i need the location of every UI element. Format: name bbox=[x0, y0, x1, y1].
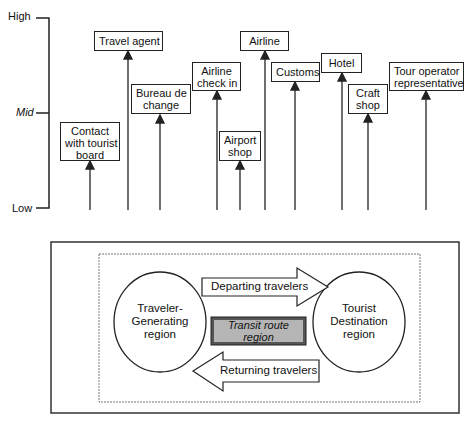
label-line: Bureau de bbox=[136, 87, 186, 99]
departing-travelers-label: Departing travelers bbox=[211, 280, 308, 292]
service-airline: Airline bbox=[240, 31, 289, 51]
label-line: shop bbox=[353, 99, 383, 111]
service-tour-operator-representative: Tour operator representative bbox=[389, 62, 464, 91]
label-line: Tourist bbox=[313, 302, 405, 315]
label-line: change bbox=[136, 99, 186, 111]
label-line: Hotel bbox=[326, 57, 357, 69]
service-airline-check-in: Airline check in bbox=[192, 62, 241, 91]
label-line: Travel agent bbox=[99, 35, 158, 47]
service-airport-shop: Airport shop bbox=[219, 131, 261, 161]
transit-route-region: Transit route region bbox=[211, 319, 306, 343]
label-line: with tourist bbox=[65, 137, 115, 149]
label-line: shop bbox=[224, 146, 256, 158]
axis-high-label: High bbox=[8, 10, 31, 22]
label-line: Airport bbox=[224, 134, 256, 146]
label-line: region bbox=[114, 328, 206, 341]
label-line: check in bbox=[197, 77, 236, 89]
label-line: Airline bbox=[197, 65, 236, 77]
label-line: Generating bbox=[114, 315, 206, 328]
label-line: Contact bbox=[65, 125, 115, 137]
label-line: Traveler- bbox=[114, 302, 206, 315]
label-line: Airline bbox=[245, 35, 284, 47]
traveler-generating-region: Traveler- Generating region bbox=[114, 302, 206, 341]
label-line: region bbox=[211, 331, 306, 343]
service-bureau-de-change: Bureau de change bbox=[131, 84, 191, 114]
service-travel-agent: Travel agent bbox=[94, 31, 163, 51]
label-line: Tour operator bbox=[394, 65, 459, 77]
label-line: region bbox=[313, 328, 405, 341]
label-line: Destination bbox=[313, 315, 405, 328]
service-craft-shop: Craft shop bbox=[348, 84, 388, 114]
returning-travelers-label: Returning travelers bbox=[220, 364, 317, 376]
label-line: representative bbox=[394, 77, 459, 89]
axis-mid-label: Mid bbox=[16, 106, 34, 118]
label-line: Customs bbox=[276, 66, 315, 78]
label-line: board bbox=[65, 149, 115, 161]
tourist-destination-region: Tourist Destination region bbox=[313, 302, 405, 341]
label-line: Transit route bbox=[211, 319, 306, 331]
service-contact-tourist-board: Contact with tourist board bbox=[60, 122, 120, 161]
label-line: Craft bbox=[353, 87, 383, 99]
axis-low-label: Low bbox=[12, 202, 32, 214]
service-hotel: Hotel bbox=[321, 53, 362, 73]
service-customs: Customs bbox=[271, 62, 320, 82]
